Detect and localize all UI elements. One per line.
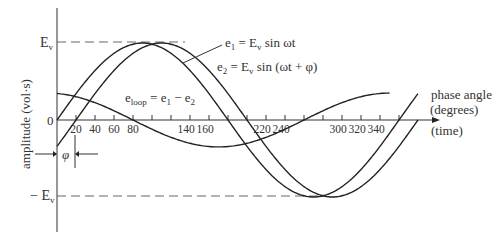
x-tick-label: 80: [127, 123, 139, 135]
x-tick-label: 320: [348, 123, 366, 135]
x-axis-label-time: (time): [431, 123, 463, 138]
phi-marker: φ: [35, 135, 98, 168]
y-axis-label: amplitude (vol·s): [18, 79, 33, 169]
e1-annotation: e1 = Ev sin ωt: [225, 35, 296, 52]
y-tick-ev: Ev: [40, 35, 54, 52]
x-tick-label: 340: [367, 123, 385, 135]
phi-label: φ: [62, 147, 69, 162]
x-axis-label-line1: phase angle: [431, 87, 492, 102]
x-tick-label: 60: [108, 123, 120, 135]
eloop-annotation: eloop = e1 − e2: [125, 90, 195, 107]
x-tick-label: 300: [329, 123, 347, 135]
y-tick-zero: 0: [47, 113, 54, 128]
y-tick-minus-ev: − Ev: [30, 188, 55, 205]
x-tick-label: 40: [89, 123, 101, 135]
phase-diagram: amplitude (vol·s) Ev 0 − Ev 204060801401…: [0, 0, 496, 243]
x-axis-label-line2: (degrees): [430, 102, 478, 117]
x-tick-label: 160: [196, 123, 214, 135]
e2-annotation: e2 = Ev sin (ωt + φ): [217, 59, 317, 76]
x-tick-label: 140: [177, 123, 195, 135]
